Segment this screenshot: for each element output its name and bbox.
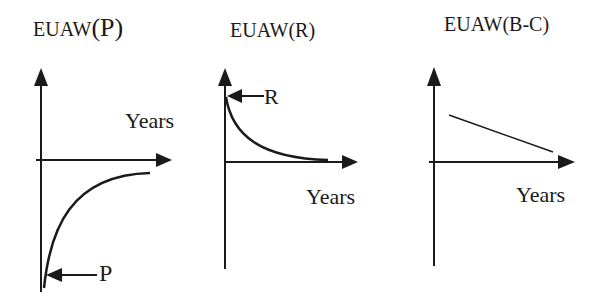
panel-p-x-axis-label: Years (125, 110, 174, 132)
panel-bc-line (449, 115, 553, 152)
panel-r-y-axis-arrow-icon (218, 68, 232, 86)
panel-bc-x-axis-arrow-icon (558, 155, 575, 169)
panel-r-pointer-label: R (264, 86, 279, 108)
diagram-canvas (0, 0, 599, 301)
panel-bc-y-axis-arrow-icon (427, 67, 441, 86)
panel-r-x-axis-arrow-icon (342, 155, 358, 169)
panel-bc-title: EUAW(B-C) (444, 14, 549, 34)
panel-r (218, 68, 358, 269)
panel-r-x-axis-label: Years (306, 186, 355, 208)
panel-p-title: EUAW(P) (33, 15, 123, 41)
panel-p-y-axis-arrow-icon (34, 68, 48, 86)
panel-r-title: EUAW(R) (230, 20, 315, 40)
panel-p-title-prefix: EUAW (33, 18, 91, 40)
panel-p-pointer-arrow-icon (46, 268, 62, 282)
panel-p-x-axis-arrow-icon (156, 153, 172, 167)
panel-r-pointer-arrow-icon (227, 89, 242, 103)
panel-p-pointer-label: P (99, 261, 112, 285)
panel-bc (427, 67, 575, 266)
panel-bc-x-axis-label: Years (516, 184, 565, 206)
panel-p (34, 68, 172, 292)
panel-p-title-paren: (P) (91, 13, 123, 42)
